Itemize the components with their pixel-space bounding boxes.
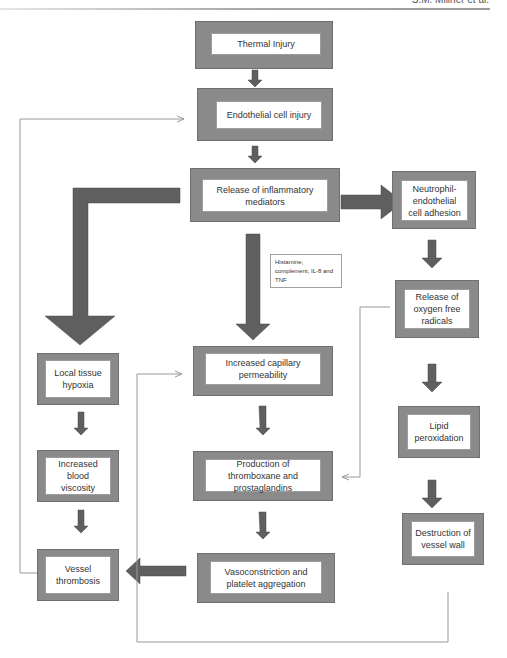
arrow-down-icon — [422, 364, 442, 392]
node-label: Release of inflammatory mediators — [202, 179, 328, 212]
node-label: Thermal Injury — [211, 33, 321, 55]
arrow-down-icon — [74, 510, 88, 533]
node-label: Endothelial cell injury — [216, 101, 322, 129]
arrow-left-icon — [126, 558, 186, 584]
node-increased-blood-viscosity: Increased blood viscosity — [37, 450, 119, 502]
node-release-oxygen-free-radicals: Release of oxygen free radicals — [395, 280, 479, 338]
arrow-down-icon — [256, 512, 270, 539]
node-vessel-thrombosis: Vessel thrombosis — [37, 549, 119, 601]
arrow-down-icon — [248, 70, 262, 87]
node-label: Neutrophil-endothelial cell adhesion — [401, 180, 468, 221]
arrow-down-icon — [236, 234, 270, 340]
node-increased-capillary-permeability: Increased capillary permeability — [193, 346, 333, 396]
arrow-down-icon — [422, 480, 442, 508]
node-label: Increased capillary permeability — [205, 353, 321, 385]
arrow-down-icon — [422, 240, 442, 268]
arrow-down-icon — [256, 406, 270, 435]
arrow-bend-down-icon — [45, 188, 180, 345]
node-label: Vessel thrombosis — [45, 556, 111, 594]
node-lipid-peroxidation: Lipid peroxidation — [398, 406, 480, 458]
node-neutrophil-adhesion: Neutrophil-endothelial cell adhesion — [392, 171, 476, 229]
node-thermal-injury: Thermal Injury — [195, 21, 333, 69]
node-label: Destruction of vessel wall — [411, 521, 475, 557]
node-destruction-vessel-wall: Destruction of vessel wall — [402, 513, 484, 565]
node-label: Release of oxygen free radicals — [404, 289, 470, 329]
arrow-down-icon — [74, 412, 88, 435]
node-label: Vasoconstriction and platelet aggregatio… — [210, 561, 322, 594]
node-local-tissue-hypoxia: Local tissue hypoxia — [37, 353, 119, 405]
node-endothelial-cell-injury: Endothelial cell injury — [197, 88, 333, 141]
arrow-down-icon — [248, 146, 262, 163]
node-label: Lipid peroxidation — [407, 414, 471, 450]
node-label: Production of thromboxane and prostaglan… — [205, 459, 321, 492]
feedback-line-thrombosis-to-endothelial — [20, 119, 184, 573]
node-production-thromboxane: Production of thromboxane and prostaglan… — [193, 451, 333, 501]
line-radicals-to-thromboxane — [342, 307, 390, 477]
node-vasoconstriction: Vasoconstriction and platelet aggregatio… — [197, 553, 335, 603]
node-label: Increased blood viscosity — [45, 457, 111, 495]
mediators-note: Histamine, complement, IL-8 and TNF — [270, 254, 342, 288]
node-release-inflammatory-mediators: Release of inflammatory mediators — [190, 168, 340, 222]
node-label: Local tissue hypoxia — [45, 360, 111, 398]
